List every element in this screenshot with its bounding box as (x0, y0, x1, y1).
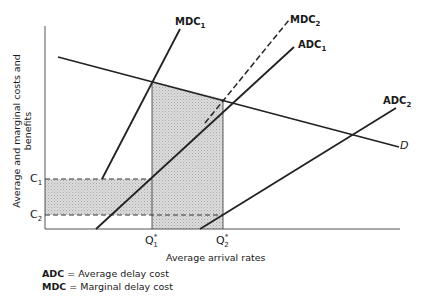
c2-tick-label: C2 (30, 208, 42, 223)
legend-item-mdc: MDC = Marginal delay cost (42, 281, 173, 292)
adc2-curve (200, 108, 396, 229)
c1-tick-label: C1 (30, 172, 42, 187)
mdc1-label: MDC1 (175, 16, 205, 30)
q2-tick-label: Q*2 (216, 233, 229, 249)
demand-curve (58, 57, 399, 147)
adc2-label: ADC2 (383, 95, 411, 109)
q1-tick-label: Q*1 (145, 233, 158, 249)
shaded-benefit-region (152, 81, 223, 229)
x-axis-label: Average arrival rates (166, 252, 266, 263)
y-axis-label: Average and marginal costs and benefits (11, 41, 33, 221)
mdc2-label: MDC2 (290, 14, 320, 28)
adc1-label: ADC1 (298, 39, 326, 53)
shaded-cost-band (45, 179, 152, 215)
demand-label: D (400, 139, 408, 152)
legend-item-adc: ADC = Average delay cost (42, 268, 169, 279)
